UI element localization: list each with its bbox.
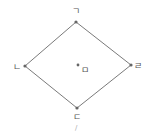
center-point xyxy=(77,64,80,67)
vertex-right-point xyxy=(129,63,132,66)
vertex-left-point xyxy=(23,64,26,67)
stray-mark: / xyxy=(75,124,78,132)
vertex-left-label: ㄴ xyxy=(13,62,21,72)
rhombus-diagram: ㄱ ㄴ ㄷ ㄹ ㅁ / xyxy=(0,0,151,137)
vertex-bottom-label: ㄷ xyxy=(73,112,81,122)
vertex-top-label: ㄱ xyxy=(72,6,80,16)
vertex-top-point xyxy=(74,20,77,23)
vertex-right-label: ㄹ xyxy=(134,61,142,71)
center-label: ㅁ xyxy=(81,65,89,75)
vertex-bottom-point xyxy=(75,106,78,109)
